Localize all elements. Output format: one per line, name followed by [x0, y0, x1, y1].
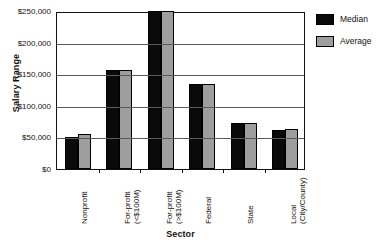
bars-layer — [57, 13, 304, 169]
bar-median — [65, 137, 78, 169]
legend-swatch-average — [316, 36, 334, 47]
chart-legend: MedianAverage — [316, 14, 386, 58]
bar-average — [78, 134, 91, 169]
legend-entry: Average — [316, 36, 386, 47]
x-axis-category-label: State — [246, 168, 255, 224]
y-axis-tick-labels: $0$50,000$100,000$150,000$200,000$250,00… — [0, 12, 53, 170]
gridline — [57, 75, 304, 76]
bar-group — [99, 13, 141, 169]
x-axis-category-label: For-profit (<$100M) — [123, 168, 141, 224]
x-axis-category-label: For-profit (>$100M) — [165, 168, 183, 224]
bar-median — [231, 123, 244, 169]
x-axis-category-label: Local (City/County) — [289, 168, 307, 224]
y-axis-tick-label: $100,000 — [18, 103, 51, 111]
y-axis-tick-label: $200,000 — [18, 40, 51, 48]
legend-swatch-median — [316, 14, 334, 25]
legend-entry: Median — [316, 14, 386, 25]
salary-range-bar-chart: Salary Range $0$50,000$100,000$150,000$2… — [0, 0, 386, 248]
y-axis-tick-label: $150,000 — [18, 71, 51, 79]
bar-average — [161, 11, 174, 169]
bar-average — [244, 123, 257, 169]
bar-average — [202, 84, 215, 169]
gridline — [57, 107, 304, 108]
x-axis-category-label: Nonprofit — [80, 168, 89, 224]
bar-group — [57, 13, 99, 169]
x-axis-title: Sector — [56, 229, 305, 239]
y-axis-tick-label: $0 — [42, 166, 51, 174]
bar-average — [285, 129, 298, 169]
gridline — [57, 138, 304, 139]
y-axis-tick-label: $250,000 — [18, 8, 51, 16]
plot-area — [56, 12, 305, 170]
bar-group — [223, 13, 265, 169]
bar-average — [119, 70, 132, 169]
x-axis-category-labels: NonprofitFor-profit (<$100M)For-profit (… — [56, 172, 305, 228]
legend-label: Average — [340, 37, 372, 46]
bar-median — [272, 130, 285, 169]
gridline — [57, 44, 304, 45]
bar-median — [106, 70, 119, 169]
bar-median — [148, 11, 161, 169]
bar-median — [189, 84, 202, 169]
y-axis-tick-label: $50,000 — [22, 134, 51, 142]
legend-label: Median — [340, 15, 368, 24]
bar-group — [182, 13, 224, 169]
bar-group — [140, 13, 182, 169]
bar-group — [265, 13, 307, 169]
x-axis-category-label: Federal — [204, 168, 213, 224]
